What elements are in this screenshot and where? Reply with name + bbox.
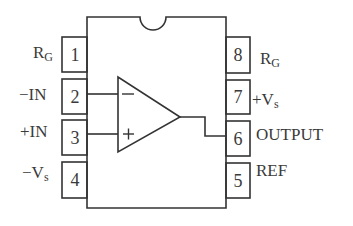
pin-number-2: 2	[63, 88, 87, 106]
pin-label-7: +Vs	[252, 91, 279, 113]
pin-label-2: −IN	[19, 86, 47, 103]
wire-output	[180, 117, 226, 136]
pin-number-6: 6	[226, 130, 250, 148]
pin-number-5: 5	[226, 172, 250, 190]
ic-package-drawing	[0, 0, 353, 226]
pin-number-1: 1	[63, 46, 87, 64]
ic-body	[87, 17, 226, 208]
pin-label-4: −Vs	[22, 164, 49, 186]
pin-label-1: RG	[33, 44, 53, 66]
pin-label-6: OUTPUT	[256, 126, 323, 143]
opamp-triangle	[118, 77, 180, 152]
pin-label-3: +IN	[20, 123, 48, 140]
pin-label-8: RG	[260, 50, 280, 72]
pin-number-3: 3	[63, 129, 87, 147]
pin-label-5: REF	[256, 162, 287, 179]
pin-number-4: 4	[63, 171, 87, 189]
pin-number-7: 7	[226, 88, 250, 106]
pin-number-8: 8	[226, 46, 250, 64]
